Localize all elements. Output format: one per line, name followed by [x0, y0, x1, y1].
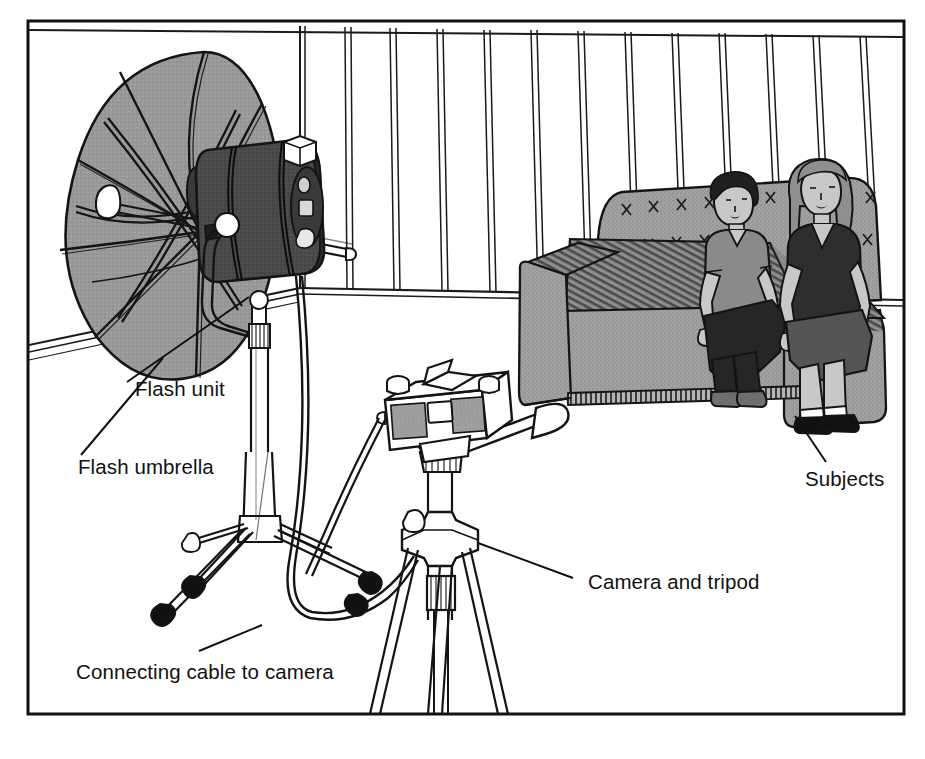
camera-grip-left [391, 403, 427, 439]
flash-dial [298, 177, 310, 193]
flash-readout [299, 200, 313, 216]
flash-tilt-knob [215, 213, 239, 237]
illustration-stage: Flash unit Flash umbrella Connecting cab… [0, 0, 925, 759]
studio-setup-illustration: Flash unit Flash umbrella Connecting cab… [0, 0, 925, 759]
label-subjects: Subjects [805, 467, 884, 490]
label-camera-and-tripod: Camera and tripod [588, 570, 760, 593]
label-connecting-cable: Connecting cable to camera [76, 660, 334, 683]
camera-grip-right [451, 397, 485, 433]
tripod-lock-knob [403, 510, 425, 532]
label-flash-unit: Flash unit [135, 377, 225, 400]
camera-lens-window [427, 401, 452, 423]
sofa-left-arm [519, 262, 571, 405]
label-flash-umbrella: Flash umbrella [78, 455, 214, 478]
